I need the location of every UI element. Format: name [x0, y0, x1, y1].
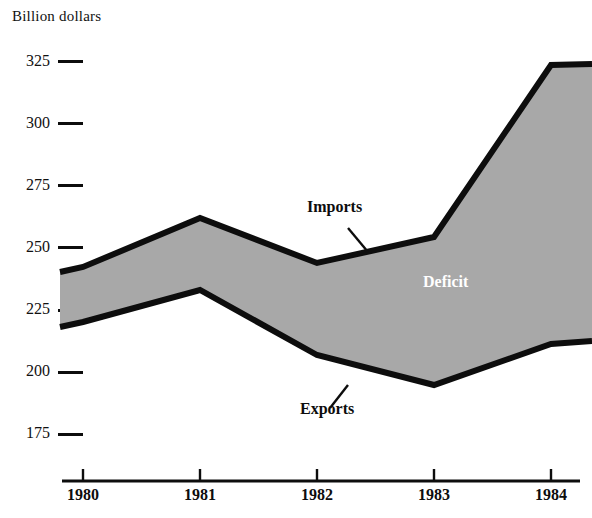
imports-annotation-label: Imports — [307, 198, 362, 216]
exports-annotation-label: Exports — [300, 400, 354, 418]
x-tick-label-1984: 1984 — [511, 486, 591, 504]
plot-area — [0, 0, 592, 518]
x-tick-label-1983: 1983 — [394, 486, 474, 504]
deficit-area-label: Deficit — [423, 273, 468, 291]
imports-leader-line — [348, 228, 368, 252]
deficit-area — [60, 64, 592, 385]
chart-figure: Billion dollars 325 300 275 250 225 200 … — [0, 0, 592, 518]
x-tick-label-1980: 1980 — [43, 486, 123, 504]
x-tick-label-1982: 1982 — [277, 486, 357, 504]
x-tick-label-1981: 1981 — [160, 486, 240, 504]
